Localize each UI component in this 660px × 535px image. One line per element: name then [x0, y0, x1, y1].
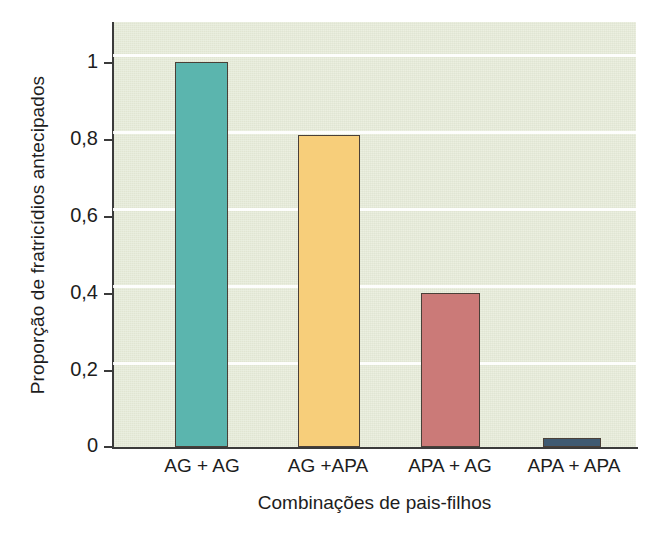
bar-ag-apa: [298, 135, 360, 447]
y-tick-mark-0.6: [104, 216, 113, 218]
x-tick-label-apa-apa: APA + APA: [509, 455, 639, 477]
bar-chart-figure: Proporção de fratricídios antecipados 0 …: [0, 0, 660, 535]
x-tick-label-ag-ag: AG + AG: [139, 455, 265, 477]
y-tick-mark-0.8: [104, 139, 113, 141]
bar-apa-apa: [543, 438, 601, 447]
y-axis-line: [112, 22, 114, 449]
y-tick-mark-0: [104, 446, 113, 448]
y-tick-label-0: 0: [52, 434, 98, 457]
x-axis-title: Combinações de pais-filhos: [113, 492, 636, 514]
y-tick-label-0.2: 0,2: [52, 358, 98, 381]
y-tick-label-0.6: 0,6: [52, 204, 98, 227]
bar-apa-ag: [421, 293, 480, 447]
bar-ag-ag: [175, 62, 228, 447]
x-axis-line: [112, 447, 638, 449]
x-tick-label-apa-ag: APA + AG: [387, 455, 513, 477]
y-tick-mark-0.2: [104, 370, 113, 372]
y-tick-mark-1: [104, 62, 113, 64]
gridline-1.0: [113, 54, 636, 57]
y-tick-label-0.8: 0,8: [52, 127, 98, 150]
y-tick-label-1: 1: [52, 50, 98, 73]
y-tick-label-0.4: 0,4: [52, 281, 98, 304]
y-tick-mark-0.4: [104, 293, 113, 295]
x-tick-label-ag-apa: AG +APA: [265, 455, 391, 477]
